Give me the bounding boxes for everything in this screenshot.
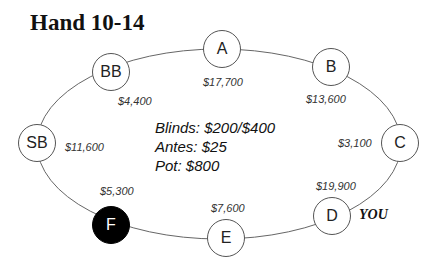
seat-f: F	[92, 206, 130, 244]
stack-b: $13,600	[306, 93, 346, 105]
hero-label: YOU	[359, 207, 388, 223]
stack-a: $17,700	[203, 76, 243, 88]
pot-text: Pot: $800	[155, 156, 275, 175]
seat-sb: SB	[18, 124, 56, 162]
stack-sb: $11,600	[65, 141, 104, 153]
seat-b: B	[312, 48, 350, 86]
stack-d: $19,900	[316, 180, 356, 192]
seat-bb: BB	[92, 53, 130, 91]
table-info: Blinds: $200/$400 Antes: $25 Pot: $800	[155, 118, 275, 175]
seat-a: A	[203, 30, 241, 68]
blinds-text: Blinds: $200/$400	[155, 118, 275, 137]
stack-e: $7,600	[211, 202, 245, 214]
stack-f: $5,300	[100, 185, 134, 197]
seat-e: E	[207, 219, 245, 257]
stack-bb: $4,400	[118, 95, 152, 107]
antes-text: Antes: $25	[155, 137, 275, 156]
seat-c: C	[381, 124, 419, 162]
stack-c: $3,100	[338, 137, 372, 149]
seat-d: D	[313, 197, 351, 235]
